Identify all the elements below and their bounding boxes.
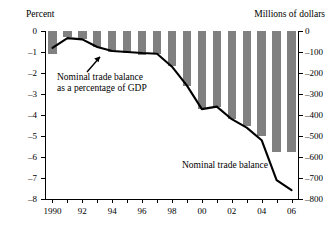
- x-label-1990: 1990: [37, 207, 67, 216]
- x-label-2002: 02: [217, 207, 247, 216]
- x-tick-2003: [247, 199, 248, 203]
- y-label-left-1: –1: [15, 48, 37, 57]
- x-label-2006: 06: [277, 207, 307, 216]
- x-tick-1995: [127, 199, 128, 203]
- y-tick-right-8: [299, 199, 303, 200]
- y-label-left-5: –5: [15, 132, 37, 141]
- y-label-left-4: –4: [15, 111, 37, 120]
- x-tick-1998: [172, 199, 173, 203]
- y-label-left-6: –6: [15, 153, 37, 162]
- x-label-2000: 00: [187, 207, 217, 216]
- chart-figure: Percent Millions of dollars 0–1–2–3–4–5–…: [0, 0, 331, 228]
- x-tick-1996: [142, 199, 143, 203]
- gdp-share-annotation: Nominal trade balance as a percentage of…: [57, 72, 147, 94]
- y-tick-right-0: [299, 31, 303, 32]
- x-tick-2000: [202, 199, 203, 203]
- y-tick-left-7: [41, 178, 45, 179]
- x-tick-1993: [97, 199, 98, 203]
- gdp-share-annotation-line2: as a percentage of GDP: [57, 83, 147, 94]
- y-tick-left-4: [41, 115, 45, 116]
- x-tick-1994: [112, 199, 113, 203]
- y-label-left-8: –8: [15, 195, 37, 204]
- right-axis-title: Millions of dollars: [254, 9, 325, 19]
- x-label-1996: 96: [127, 207, 157, 216]
- y-label-right-5: –500: [305, 132, 331, 141]
- y-tick-right-7: [299, 178, 303, 179]
- y-label-left-3: –3: [15, 90, 37, 99]
- y-tick-left-1: [41, 52, 45, 53]
- y-label-right-1: –100: [305, 48, 331, 57]
- y-tick-left-2: [41, 73, 45, 74]
- x-tick-1999: [187, 199, 188, 203]
- y-tick-left-6: [41, 157, 45, 158]
- y-tick-right-4: [299, 115, 303, 116]
- x-tick-1991: [67, 199, 68, 203]
- y-tick-left-3: [41, 94, 45, 95]
- y-label-left-2: –2: [15, 69, 37, 78]
- y-tick-right-2: [299, 73, 303, 74]
- x-label-1994: 94: [97, 207, 127, 216]
- y-tick-right-3: [299, 94, 303, 95]
- x-tick-1990: [52, 199, 53, 203]
- annotation-arrow-icon: [84, 56, 104, 74]
- y-tick-right-5: [299, 136, 303, 137]
- x-tick-2004: [262, 199, 263, 203]
- y-tick-left-5: [41, 136, 45, 137]
- y-label-right-2: –200: [305, 69, 331, 78]
- x-tick-1992: [82, 199, 83, 203]
- trade-balance-annotation: Nominal trade balance: [182, 160, 268, 171]
- y-tick-left-0: [41, 31, 45, 32]
- x-label-2004: 04: [247, 207, 277, 216]
- y-tick-left-8: [41, 199, 45, 200]
- x-label-1998: 98: [157, 207, 187, 216]
- x-tick-2005: [277, 199, 278, 203]
- x-label-1992: 92: [67, 207, 97, 216]
- y-label-right-7: –700: [305, 174, 331, 183]
- x-tick-2001: [217, 199, 218, 203]
- x-tick-2006: [292, 199, 293, 203]
- x-tick-2002: [232, 199, 233, 203]
- y-label-right-6: –600: [305, 153, 331, 162]
- y-label-right-3: –300: [305, 90, 331, 99]
- y-label-right-8: –800: [305, 195, 331, 204]
- y-label-right-4: –400: [305, 111, 331, 120]
- y-tick-right-6: [299, 157, 303, 158]
- x-tick-1997: [157, 199, 158, 203]
- y-label-right-0: 0: [305, 27, 331, 36]
- y-tick-right-1: [299, 52, 303, 53]
- left-axis-title: Percent: [26, 9, 55, 19]
- y-label-left-0: 0: [15, 27, 37, 36]
- y-label-left-7: –7: [15, 174, 37, 183]
